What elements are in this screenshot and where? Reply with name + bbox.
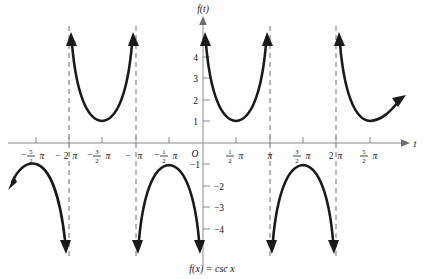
tick-whole: 2 [64, 151, 69, 161]
y-tick-label: −4 [214, 225, 224, 235]
tick-pi-symbol: π [73, 151, 78, 161]
branch-left-outer [12, 164, 65, 240]
branch-arrowhead [66, 32, 77, 46]
tick-numerator: 5 [362, 148, 366, 155]
x-tick-label-neg-pi: − π [125, 151, 142, 161]
x-tick-label-neg-3-2-pi: − 3 2 π [87, 148, 110, 164]
branch-arrowhead [262, 32, 273, 46]
tick-pi-symbol: π [306, 151, 311, 161]
x-axis-arrowhead [401, 139, 410, 147]
tick-numerator: 3 [95, 148, 99, 155]
branch-arrowhead [128, 32, 139, 46]
tick-pi-symbol: π [268, 151, 273, 161]
tick-numerator: 5 [29, 148, 33, 155]
y-tick-label: 2 [193, 96, 198, 106]
x-tick-label-1-2-pi: 1 2 π [226, 148, 244, 164]
x-axis [8, 139, 410, 147]
tick-pi-symbol: π [40, 151, 45, 161]
tick-sign: − [21, 150, 26, 160]
tick-sign: − [55, 151, 60, 161]
branch-right-outer [340, 44, 398, 121]
tick-pi-symbol: π [338, 151, 343, 161]
branch-arrowhead [8, 176, 17, 190]
tick-numerator: 1 [162, 148, 165, 155]
y-tick-label: 4 [193, 53, 198, 63]
tick-denominator: 2 [162, 157, 165, 164]
branch-left-lower [139, 165, 199, 240]
tick-whole: 2 [329, 151, 334, 161]
x-axis-label: t [414, 139, 417, 149]
x-tick-label-3-2-pi: 3 2 π [293, 148, 311, 164]
branch-right-lower [273, 165, 333, 240]
branch-arrowhead [132, 240, 143, 254]
y-tick-label: −2 [214, 182, 224, 192]
x-tick-label-5-2-pi: 5 2 π [360, 148, 378, 164]
y-tick-label: 3 [193, 74, 198, 84]
branch-arrowhead [266, 240, 277, 254]
branch-arrowhead [328, 240, 339, 254]
origin-label: O [192, 149, 199, 159]
tick-denominator: 2 [29, 157, 32, 164]
tick-pi-symbol: π [373, 151, 378, 161]
tick-denominator: 2 [295, 157, 298, 164]
tick-pi-symbol: π [239, 151, 244, 161]
y-tick-label: 1 [193, 117, 198, 127]
tick-numerator: 1 [228, 148, 231, 155]
tick-denominator: 2 [228, 157, 231, 164]
figure-caption: f(x) = csc x [189, 263, 235, 275]
cosecant-graph-figure: f(t) t O − 5 2 π − 2 π − 3 [0, 0, 424, 279]
x-tick-label-neg-2-pi: − 2 π [55, 151, 77, 161]
y-tick-label: −1 [190, 160, 200, 170]
tick-sign: − [154, 150, 159, 160]
y-axis-label: f(t) [197, 4, 209, 15]
tick-pi-symbol: π [138, 151, 143, 161]
branch-arrowhead [200, 32, 211, 46]
branch-left-upper [72, 44, 132, 121]
y-axis-arrowhead [199, 16, 207, 25]
tick-numerator: 3 [295, 148, 299, 155]
x-tick-label-neg-5-2-pi: − 5 2 π [21, 148, 44, 164]
tick-sign: − [87, 150, 92, 160]
tick-sign: − [125, 151, 130, 161]
tick-pi-symbol: π [106, 151, 111, 161]
tick-denominator: 2 [95, 157, 98, 164]
branch-center-upper [206, 44, 266, 121]
tick-denominator: 2 [362, 157, 365, 164]
tick-pi-symbol: π [173, 151, 178, 161]
y-tick-label: −3 [214, 203, 224, 213]
x-tick-label-neg-1-2-pi: − 1 2 π [154, 148, 177, 164]
x-tick-label-pi: π [268, 151, 273, 161]
